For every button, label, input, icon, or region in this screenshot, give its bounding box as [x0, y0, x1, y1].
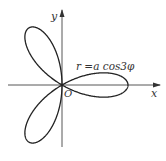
x-axis-label: x — [151, 87, 158, 100]
y-axis-label: y — [50, 10, 58, 23]
polar-rose-figure: y x O r =a cos3φ — [0, 0, 166, 161]
origin-label: O — [64, 88, 72, 99]
equation-label: r =a cos3φ — [76, 60, 135, 72]
